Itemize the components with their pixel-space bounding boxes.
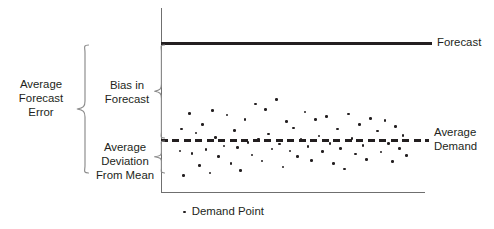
demand-point: [201, 123, 204, 126]
demand-point: [336, 128, 339, 131]
demand-point: [351, 137, 354, 140]
demand-point: [282, 166, 285, 169]
demand-point: [278, 143, 281, 146]
average-forecast-error-label: Average Forecast Error: [10, 78, 72, 120]
forecast-error-diagram: Average Forecast Error Bias in Forecast …: [0, 0, 494, 229]
demand-point: [310, 159, 313, 162]
demand-point: [236, 146, 239, 149]
demand-point: [358, 123, 361, 126]
demand-point: [198, 164, 201, 167]
demand-point: [314, 118, 317, 121]
demand-point: [247, 141, 250, 144]
forecast-series-label: Forecast: [437, 36, 481, 50]
demand-point: [264, 108, 267, 111]
demand-point: [211, 109, 214, 112]
demand-point: [285, 120, 288, 123]
demand-point: [296, 155, 299, 158]
demand-point: [402, 134, 405, 137]
demand-point: [347, 113, 350, 116]
demand-point: [380, 151, 383, 154]
demand-point: [365, 158, 368, 161]
demand-point: [394, 125, 397, 128]
demand-point: [372, 140, 375, 143]
demand-point: [275, 98, 278, 101]
demand-point: [289, 150, 292, 153]
demand-point: [300, 138, 303, 141]
demand-point: [191, 152, 194, 155]
demand-point: [384, 119, 387, 122]
demand-point: [354, 153, 357, 156]
average-demand-series-label: Average Demand: [434, 126, 477, 154]
demand-point: [318, 135, 321, 138]
demand-point: [267, 133, 270, 136]
demand-point: [362, 144, 365, 147]
demand-point: [271, 148, 274, 151]
demand-point: [339, 147, 342, 150]
demand-point: [261, 160, 264, 163]
bias-in-forecast-label: Bias in Forecast: [98, 79, 156, 107]
demand-point: [254, 103, 257, 106]
average-deviation-from-mean-label: Average Deviation From Mean: [92, 141, 158, 183]
dot-marker-icon: [183, 211, 186, 214]
demand-point: [195, 132, 198, 135]
demand-point: [223, 145, 226, 148]
demand-point: [182, 174, 185, 177]
demand-point: [376, 130, 379, 133]
demand-point: [214, 136, 217, 139]
demand-point: [369, 117, 372, 120]
demand-point: [325, 115, 328, 118]
demand-point: [332, 162, 335, 165]
demand-point: [239, 169, 242, 172]
demand-point: [230, 162, 233, 165]
demand-point: [304, 111, 307, 114]
legend-label: Demand Point: [192, 205, 264, 217]
demand-point: [343, 168, 346, 171]
demand-point: [251, 154, 254, 157]
demand-point: [405, 154, 408, 157]
average-forecast-error-brace: [74, 44, 92, 174]
demand-point: [292, 127, 295, 130]
demand-point: [188, 112, 191, 115]
demand-point: [217, 155, 220, 158]
demand-point: [180, 128, 183, 131]
demand-point: [233, 129, 236, 132]
demand-point: [205, 148, 208, 151]
demand-point: [209, 172, 212, 175]
demand-point: [387, 142, 390, 145]
demand-point: [391, 160, 394, 163]
demand-point: [257, 138, 260, 141]
demand-point: [307, 145, 310, 148]
demand-point: [244, 118, 247, 121]
demand-point: [321, 150, 324, 153]
demand-point: [226, 114, 229, 117]
chart-legend: Demand Point: [161, 205, 286, 217]
demand-point: [179, 150, 182, 153]
demand-point: [329, 142, 332, 145]
demand-point: [398, 147, 401, 150]
